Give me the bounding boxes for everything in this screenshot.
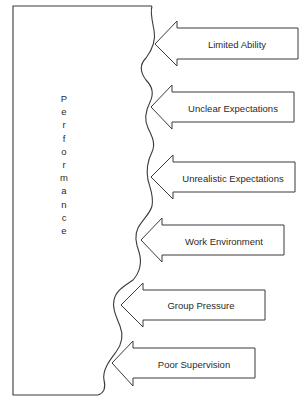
letter: P xyxy=(58,92,70,105)
factor-label-work-environment: Work Environment xyxy=(185,236,263,247)
factor-label-poor-supervision: Poor Supervision xyxy=(158,359,230,370)
diagram-shapes xyxy=(0,0,305,408)
letter: m xyxy=(58,171,70,184)
letter: a xyxy=(58,184,70,197)
factor-label-group-pressure: Group Pressure xyxy=(167,300,234,311)
factor-label-unrealistic-expectations: Unrealistic Expectations xyxy=(182,173,283,184)
performance-label: P e r f o r m a n c e xyxy=(58,92,70,237)
letter: n xyxy=(58,198,70,211)
performance-box xyxy=(13,6,155,395)
letter: c xyxy=(58,211,70,224)
letter: o xyxy=(58,145,70,158)
letter: r xyxy=(58,118,70,131)
factor-label-limited-ability: Limited Ability xyxy=(208,39,266,50)
letter: e xyxy=(58,105,70,118)
performance-diagram: P e r f o r m a n c e Limited Ability Un… xyxy=(0,0,305,408)
letter: e xyxy=(58,224,70,237)
letter: r xyxy=(58,158,70,171)
letter: f xyxy=(58,132,70,145)
factor-label-unclear-expectations: Unclear Expectations xyxy=(188,103,278,114)
